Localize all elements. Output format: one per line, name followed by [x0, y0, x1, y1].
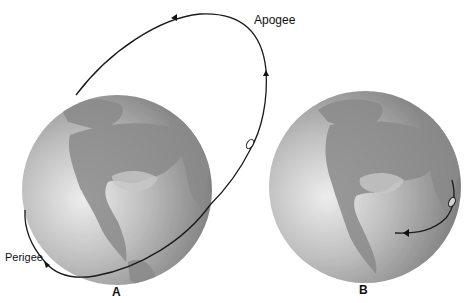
orbit-a-arrow-right: [263, 70, 269, 76]
perigee-label: Perigee: [5, 251, 43, 263]
globe-a: [22, 95, 212, 285]
orbit-diagram: [0, 0, 469, 303]
panel-b-label: B: [359, 283, 368, 297]
satellite-a-icon: [245, 138, 255, 150]
apogee-label: Apogee: [254, 13, 295, 27]
globe-b: [269, 91, 461, 283]
panel-a-label: A: [112, 285, 121, 299]
